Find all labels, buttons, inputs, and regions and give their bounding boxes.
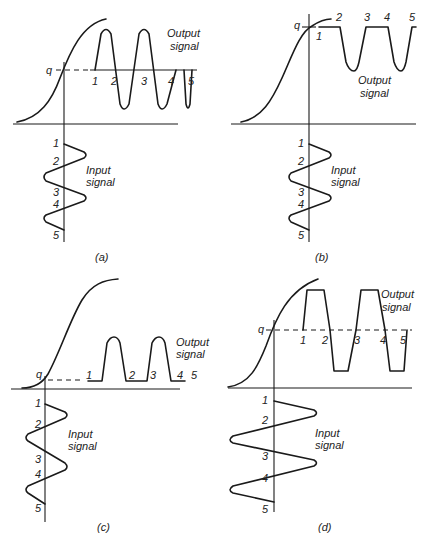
input-signal-label: signal [86,176,115,188]
panel-caption: (d) [318,521,332,533]
input-markers: 1 2 3 4 5 [261,394,269,515]
svg-text:2: 2 [52,155,59,167]
panel-caption: (b) [315,251,329,263]
input-signal-waveform [230,401,317,502]
svg-text:5: 5 [400,334,407,346]
svg-text:5: 5 [409,11,416,23]
svg-text:4: 4 [177,369,183,381]
bias-point-label: q [258,323,265,335]
panel-caption: (c) [97,521,110,533]
svg-text:1: 1 [316,30,322,42]
output-signal-waveform [319,27,416,71]
panel-caption: (a) [95,251,109,263]
panel-d: q Output signal 1 2 3 4 5 1 2 3 4 5 Inpu… [228,279,415,533]
svg-text:4: 4 [298,198,304,210]
svg-text:3: 3 [364,11,371,23]
output-signal-label: signal [360,87,389,99]
input-markers: 1 2 3 4 5 [34,397,42,514]
svg-text:2: 2 [335,11,342,23]
svg-text:3: 3 [53,186,60,198]
svg-text:2: 2 [128,369,135,381]
svg-text:1: 1 [262,394,268,406]
svg-text:3: 3 [354,334,361,346]
input-signal-label: Input [331,164,356,176]
svg-text:5: 5 [188,75,195,87]
output-signal-label: Output [167,27,201,39]
output-markers: 1 2 3 4 5 [92,75,195,87]
svg-text:5: 5 [191,369,198,381]
input-signal-label: Input [315,427,340,439]
svg-text:3: 3 [298,186,305,198]
svg-text:2: 2 [110,75,117,87]
input-signal-label: signal [331,176,360,188]
svg-text:3: 3 [150,369,157,381]
svg-text:1: 1 [92,75,98,87]
svg-text:5: 5 [262,503,269,515]
output-signal-label: Output [381,288,415,300]
svg-text:4: 4 [168,75,174,87]
svg-text:2: 2 [297,155,304,167]
svg-text:4: 4 [380,334,386,346]
panel-a: q Output signal 1 2 3 4 5 1 2 3 4 5 Inpu… [13,19,201,263]
svg-text:1: 1 [86,369,92,381]
svg-text:4: 4 [384,11,390,23]
svg-text:4: 4 [262,472,268,484]
bias-point-label: q [36,368,43,380]
input-signal-waveform [44,144,86,230]
svg-text:1: 1 [53,137,59,149]
transfer-curve [228,279,318,387]
input-signal-label: Input [68,428,93,440]
output-signal-waveform [88,337,185,381]
transfer-characteristic-figure: q Output signal 1 2 3 4 5 1 2 3 4 5 Inpu… [0,0,422,539]
svg-text:5: 5 [53,229,60,241]
bias-point-label: q [46,64,53,76]
output-signal-label: signal [170,40,199,52]
svg-text:4: 4 [35,468,41,480]
output-signal-label: signal [382,301,411,313]
bias-point-label: q [294,19,301,31]
svg-text:3: 3 [35,453,42,465]
svg-text:1: 1 [298,137,304,149]
svg-text:2: 2 [261,414,268,426]
svg-text:3: 3 [262,450,269,462]
output-signal-label: Output [358,74,392,86]
svg-text:5: 5 [298,229,305,241]
svg-text:3: 3 [141,75,148,87]
output-signal-label: signal [176,348,205,360]
output-signal-label: Output [176,336,210,348]
svg-text:5: 5 [35,502,42,514]
svg-text:2: 2 [321,334,328,346]
input-signal-label: Input [86,164,111,176]
output-markers: 1 2 3 4 5 [300,334,407,346]
panel-c: q Output signal 1 2 3 4 5 1 2 3 4 5 Inpu… [11,279,210,533]
panel-b: q Output signal 1 2 3 4 5 1 2 3 4 5 Inpu… [231,11,416,263]
svg-text:2: 2 [34,418,41,430]
input-signal-label: signal [68,440,97,452]
svg-text:1: 1 [300,334,306,346]
input-signal-label: signal [315,439,344,451]
input-signal-waveform [289,144,331,230]
svg-text:4: 4 [53,198,59,210]
svg-text:1: 1 [35,397,41,409]
input-signal-waveform [26,404,67,504]
